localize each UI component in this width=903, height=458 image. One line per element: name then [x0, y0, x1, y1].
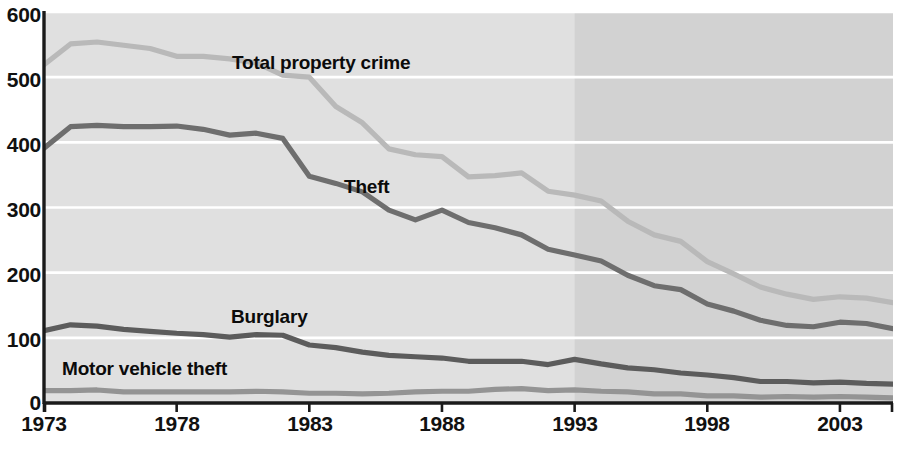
chart-plot-area — [0, 0, 903, 458]
y-tick-label-400: 400 — [1, 133, 41, 157]
x-tick-label-1988: 1988 — [402, 412, 482, 436]
x-tick-label-1978: 1978 — [137, 412, 217, 436]
y-tick-label-500: 500 — [1, 68, 41, 92]
x-tick-label-1973: 1973 — [4, 412, 84, 436]
x-tick-label-1998: 1998 — [667, 412, 747, 436]
x-tick-label-2003: 2003 — [800, 412, 880, 436]
series-label-total-property-crime: Total property crime — [232, 52, 410, 74]
y-tick-label-100: 100 — [1, 328, 41, 352]
y-tick-label-200: 200 — [1, 263, 41, 287]
series-label-burglary: Burglary — [231, 306, 308, 328]
y-tick-label-600: 600 — [1, 3, 41, 27]
x-tick-label-1993: 1993 — [535, 412, 615, 436]
series-label-motor-vehicle-theft: Motor vehicle theft — [62, 358, 227, 380]
y-tick-label-300: 300 — [1, 198, 41, 222]
property-crime-line-chart: 600 500 400 300 200 100 0 1973 1978 1983… — [0, 0, 903, 458]
x-tick-label-1983: 1983 — [270, 412, 350, 436]
series-label-theft: Theft — [344, 176, 389, 198]
